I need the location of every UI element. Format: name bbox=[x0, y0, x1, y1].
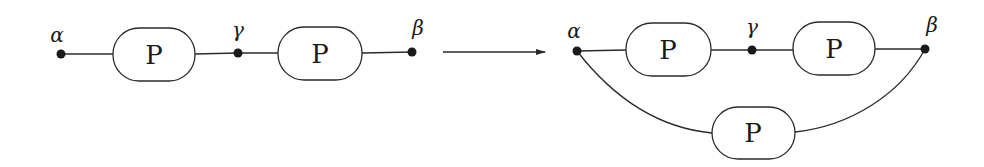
block-label: P bbox=[825, 34, 843, 64]
right-label-gamma: γ bbox=[746, 15, 758, 39]
right-edge-alpha-p1 bbox=[577, 50, 626, 51]
left-edge-p1-gamma bbox=[195, 53, 238, 54]
right-block-3: P bbox=[712, 107, 795, 159]
right-node-alpha bbox=[573, 47, 582, 56]
left-node-gamma bbox=[234, 49, 243, 58]
left-diagram: P P α γ β bbox=[50, 16, 424, 81]
diagram-canvas: P P α γ β P P P bbox=[0, 0, 984, 167]
right-diagram: P P P α γ β bbox=[567, 13, 938, 159]
left-edge-p2-beta bbox=[362, 52, 412, 53]
left-node-alpha bbox=[57, 50, 66, 59]
block-label: P bbox=[311, 39, 329, 69]
right-node-gamma bbox=[748, 46, 757, 55]
right-node-beta bbox=[921, 45, 930, 54]
right-label-alpha: α bbox=[567, 19, 581, 43]
block-label: P bbox=[659, 35, 677, 65]
right-block-2: P bbox=[793, 22, 875, 75]
right-block-1: P bbox=[626, 23, 711, 76]
right-label-beta: β bbox=[925, 13, 938, 37]
left-label-gamma: γ bbox=[232, 18, 244, 42]
left-block-2: P bbox=[278, 27, 362, 80]
left-label-alpha: α bbox=[50, 23, 64, 47]
left-block-1: P bbox=[113, 28, 195, 81]
left-label-beta: β bbox=[411, 16, 424, 40]
block-label: P bbox=[744, 118, 762, 148]
block-label: P bbox=[145, 40, 163, 70]
left-node-beta bbox=[408, 48, 417, 57]
